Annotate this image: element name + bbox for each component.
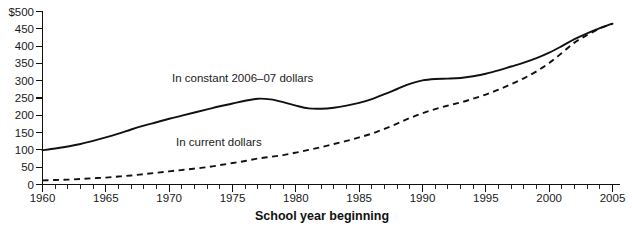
x-tick-label-1995: 1995	[473, 192, 499, 204]
y-tick-label-50: 50	[21, 161, 34, 173]
y-tick-label-150: 150	[15, 127, 34, 139]
y-axis-ticks	[36, 12, 43, 185]
x-tick-label-1970: 1970	[156, 192, 182, 204]
x-tick-label-2005: 2005	[600, 192, 626, 204]
series-annotation-current-dollars: In current dollars	[176, 136, 262, 148]
y-tick-label-450: 450	[15, 23, 34, 35]
x-tick-label-1960: 1960	[30, 192, 56, 204]
y-tick-label-0: 0	[28, 179, 34, 191]
y-tick-label-300: 300	[15, 75, 34, 87]
x-tick-label-1965: 1965	[93, 192, 119, 204]
y-tick-label-200: 200	[15, 109, 34, 121]
x-tick-label-1985: 1985	[346, 192, 372, 204]
x-axis-title: School year beginning	[255, 209, 389, 223]
x-tick-label-1975: 1975	[220, 192, 246, 204]
x-axis-major-ticks	[43, 185, 613, 192]
y-tick-label-250: 250	[15, 92, 34, 104]
x-tick-label-1990: 1990	[410, 192, 436, 204]
y-tick-label-400: 400	[15, 40, 34, 52]
series-annotation-constant-dollars: In constant 2006–07 dollars	[172, 72, 314, 84]
y-tick-label-100: 100	[15, 144, 34, 156]
line-chart: $500 450 400 350 300 250 200 150 100 50 …	[0, 0, 632, 228]
series-line-current-dollars	[43, 24, 613, 180]
y-axis-tick-labels: $500 450 400 350 300 250 200 150 100 50 …	[8, 6, 34, 191]
x-axis-tick-labels: 1960196519701975198019851990199520002005	[30, 192, 626, 204]
y-tick-label-500: $500	[8, 6, 34, 18]
chart-axes	[43, 11, 621, 185]
chart-container: $500 450 400 350 300 250 200 150 100 50 …	[0, 0, 632, 228]
series-line-constant-dollars	[43, 24, 613, 151]
y-tick-label-350: 350	[15, 57, 34, 69]
x-tick-label-1980: 1980	[283, 192, 309, 204]
x-tick-label-2000: 2000	[536, 192, 562, 204]
